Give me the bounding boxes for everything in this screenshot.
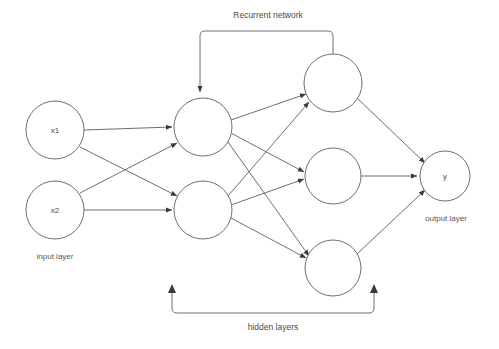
node-label-x1: x1 [51,126,60,135]
edges-hidden1-to-hidden2 [228,94,309,258]
node-circles [26,54,470,296]
edge-x1-h1 [84,127,172,130]
node-h4[interactable] [305,148,361,204]
output-layer-label: output layer [425,214,467,223]
edge-h1-h3 [231,94,306,120]
neural-network-diagram: x1 x2 y Recurrent network hidden layers … [0,0,499,349]
hidden-bracket-path [172,292,374,313]
edge-h1-h4 [231,133,304,172]
hidden-bracket-arrow-left [168,284,176,293]
input-layer-label: input layer [37,252,74,261]
edge-h2-h5 [231,218,306,258]
annotations: Recurrent network hidden layers input la… [37,10,468,332]
edge-x2-h1 [80,143,177,193]
node-h3[interactable] [304,54,362,112]
edges-hidden2-to-output [357,98,425,254]
node-h2[interactable] [174,181,232,239]
edge-h1-h5 [228,142,309,256]
diagram-canvas: x1 x2 y Recurrent network hidden layers … [0,0,499,349]
node-label-x2: x2 [51,206,60,215]
node-label-y: y [443,172,447,181]
hidden-bracket-arrow-right [370,284,378,293]
node-h5[interactable] [305,240,361,296]
recurrent-network-label: Recurrent network [233,10,303,20]
edge-h5-y [357,190,425,254]
edge-h2-h4 [231,179,304,205]
hidden-layers-label: hidden layers [248,322,299,332]
edge-h3-y [357,98,425,163]
edge-x1-h2 [80,147,177,196]
node-h1[interactable] [174,98,232,156]
edges-input-to-hidden1 [80,127,177,210]
